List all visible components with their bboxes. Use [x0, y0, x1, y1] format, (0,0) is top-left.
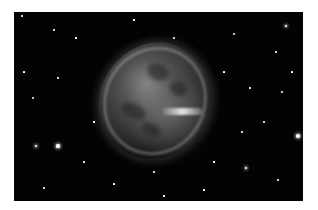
star — [163, 195, 164, 196]
star — [83, 161, 84, 162]
star — [285, 25, 288, 28]
star — [32, 97, 34, 99]
nebula-photo — [14, 12, 303, 201]
star — [75, 37, 76, 38]
star — [281, 91, 283, 93]
star — [291, 71, 292, 72]
star — [153, 171, 154, 172]
star — [263, 121, 265, 123]
nebula-rim — [84, 28, 226, 173]
nebula — [79, 23, 232, 179]
star — [213, 161, 214, 162]
star — [241, 131, 242, 132]
star — [249, 87, 250, 88]
star — [56, 144, 59, 147]
star — [133, 19, 134, 20]
star — [57, 77, 58, 78]
star — [35, 145, 38, 148]
star — [173, 37, 175, 39]
star — [93, 121, 94, 122]
star — [113, 183, 114, 184]
star — [296, 134, 300, 138]
star — [245, 167, 248, 170]
star — [21, 15, 23, 17]
star — [223, 71, 224, 72]
star — [203, 189, 204, 190]
bright-bar — [162, 108, 202, 115]
star — [277, 179, 278, 180]
star — [233, 33, 235, 35]
star — [23, 71, 24, 72]
star — [43, 187, 44, 188]
star — [275, 51, 276, 52]
star — [53, 29, 54, 30]
